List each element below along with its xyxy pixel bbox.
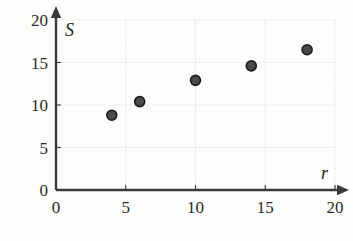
axes-group (51, 6, 349, 195)
data-point (107, 110, 117, 120)
data-point (135, 97, 145, 107)
x-axis-tick-label: 5 (122, 199, 131, 216)
data-point (302, 45, 312, 55)
y-axis-tick-label: 0 (40, 182, 49, 199)
y-axis-tick-label: 15 (31, 54, 48, 71)
x-axis-label: r (321, 164, 328, 182)
x-axis-tick-label: 20 (327, 199, 344, 216)
x-axis-tick-label: 0 (52, 199, 61, 216)
y-axis-arrowhead (51, 6, 61, 18)
y-axis-tick-label: 10 (31, 97, 48, 114)
y-axis-label: S (65, 21, 74, 39)
data-point (246, 61, 256, 71)
y-axis-tick-label: 20 (31, 12, 48, 29)
x-axis-arrowhead (337, 185, 349, 195)
data-point (191, 75, 201, 85)
gridlines-group (56, 20, 335, 190)
data-points-group (107, 45, 312, 120)
x-axis-tick-label: 15 (257, 199, 274, 216)
x-axis-tick-label: 10 (187, 199, 204, 216)
y-axis-tick-label: 5 (40, 139, 49, 156)
scatter-plot-figure: 05101520 05101520 S r (0, 0, 353, 241)
